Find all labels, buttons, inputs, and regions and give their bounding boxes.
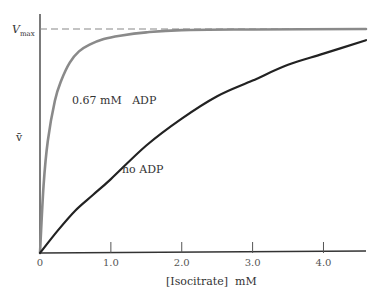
x-axis-label: [Isocitrate] mM bbox=[166, 275, 257, 288]
x-tick-label: 0 bbox=[37, 257, 43, 268]
x-tick-label: 3.0 bbox=[245, 257, 261, 268]
x-axis bbox=[40, 251, 366, 253]
x-tick-label: 1.0 bbox=[103, 257, 119, 268]
vmax-label: Vmax bbox=[12, 23, 35, 38]
series-no-adp-curve bbox=[40, 40, 366, 253]
annotation-no-adp: no ADP bbox=[122, 163, 164, 176]
x-tick-label: 2.0 bbox=[174, 257, 190, 268]
y-axis-label: v̄ bbox=[15, 131, 23, 144]
series-adp-curve bbox=[40, 29, 366, 253]
x-tick-label: 4.0 bbox=[316, 257, 332, 268]
annotation-adp: 0.67 mM ADP bbox=[72, 94, 157, 107]
chart: Vmax v̄ 01.02.03.04.0 0.67 mM ADP no ADP… bbox=[0, 0, 374, 295]
